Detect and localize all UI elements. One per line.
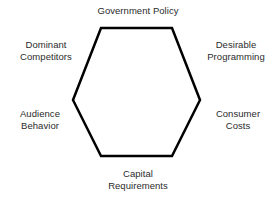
- label-audience-behavior-line2: Behavior: [21, 120, 59, 131]
- label-capital-requirements: Capital Requirements: [0, 168, 276, 191]
- label-audience-behavior-line1: Audience: [20, 108, 60, 119]
- label-government-policy-text: Government Policy: [97, 5, 178, 16]
- label-consumer-costs: Consumer Costs: [200, 108, 276, 131]
- label-capital-requirements-line1: Capital: [123, 168, 153, 179]
- hexagon-outline: [73, 28, 200, 156]
- label-desirable-programming-line1: Desirable: [216, 39, 257, 50]
- label-dominant-competitors-line1: Dominant: [25, 39, 66, 50]
- label-capital-requirements-line2: Requirements: [108, 180, 168, 191]
- label-consumer-costs-line2: Costs: [226, 120, 251, 131]
- label-desirable-programming-line2: Programming: [207, 51, 265, 62]
- label-consumer-costs-line1: Consumer: [216, 108, 260, 119]
- label-dominant-competitors-line2: Competitors: [20, 51, 72, 62]
- label-dominant-competitors: Dominant Competitors: [0, 39, 92, 62]
- label-audience-behavior: Audience Behavior: [0, 108, 80, 131]
- label-government-policy: Government Policy: [0, 5, 276, 17]
- label-desirable-programming: Desirable Programming: [196, 39, 276, 62]
- diagram-canvas: Government Policy Dominant Competitors D…: [0, 0, 276, 204]
